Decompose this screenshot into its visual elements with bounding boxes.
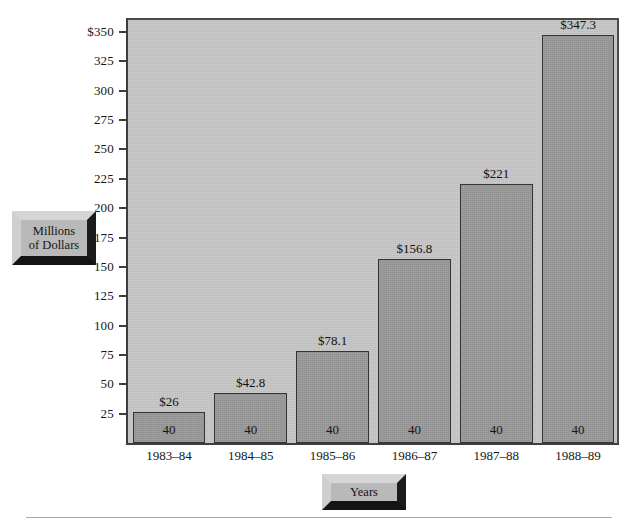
y-axis-tick	[119, 295, 128, 297]
bar-inner-label: 40	[134, 423, 205, 437]
bar-inner-label: 40	[297, 423, 368, 437]
bar-value-label: $26	[133, 395, 206, 409]
x-axis-category-label: 1983–84	[128, 449, 210, 463]
y-axis-tick	[119, 60, 128, 62]
y-axis-tick	[119, 413, 128, 415]
y-axis-tick-label: 325	[46, 54, 114, 67]
bar-value-label: $78.1	[296, 334, 369, 348]
bar-inner-label: 40	[215, 423, 286, 437]
y-axis-tick-label: 100	[46, 319, 114, 332]
y-axis-tick	[119, 178, 128, 180]
bar: 40	[296, 351, 369, 443]
bar: 40	[378, 259, 451, 443]
x-axis-category-label: 1988–89	[537, 449, 619, 463]
x-axis-category-label: 1987–88	[455, 449, 537, 463]
y-axis-tick	[119, 383, 128, 385]
y-axis-tick	[119, 266, 128, 268]
x-axis-category-label: 1984–85	[210, 449, 292, 463]
y-axis-tick-label: 300	[46, 84, 114, 97]
bar-inner-label: 40	[379, 423, 450, 437]
x-axis-line	[126, 443, 619, 445]
y-axis-tick-label: 75	[46, 348, 114, 361]
bar-value-label: $347.3	[542, 18, 615, 32]
y-axis-title-line-1: Millions	[33, 224, 75, 238]
y-axis-tick	[119, 207, 128, 209]
y-axis-tick-label: 25	[46, 407, 114, 420]
y-axis-tick	[119, 325, 128, 327]
x-axis-title-plate: Years	[322, 474, 406, 510]
bar-value-label: $221	[460, 167, 533, 181]
y-axis-tick-label: 125	[46, 289, 114, 302]
x-axis-title-text: Years	[331, 485, 397, 499]
bar-inner-label: 40	[543, 423, 614, 437]
y-axis-tick	[119, 90, 128, 92]
bar: 40	[542, 35, 615, 443]
bar-chart-figure: 255075100125150175200225250275300325$350…	[0, 0, 638, 531]
bar: 40	[460, 184, 533, 443]
x-axis-category-label: 1986–87	[374, 449, 456, 463]
bar: 40	[133, 412, 206, 443]
bottom-divider-rule	[26, 517, 612, 518]
y-axis-tick	[119, 119, 128, 121]
y-axis-tick-label: $350	[46, 25, 114, 38]
y-axis-title-text: Millions of Dollars	[21, 224, 87, 252]
y-axis-tick-label: 50	[46, 377, 114, 390]
y-axis-line	[126, 18, 128, 445]
bar-value-label: $42.8	[214, 376, 287, 390]
x-axis-category-label: 1985–86	[292, 449, 374, 463]
y-axis-tick	[119, 31, 128, 33]
y-axis-tick	[119, 237, 128, 239]
bar-value-label: $156.8	[378, 242, 451, 256]
bar: 40	[214, 393, 287, 443]
y-axis-title-line-2: of Dollars	[29, 238, 79, 252]
y-axis-tick-labels: 255075100125150175200225250275300325$350	[40, 0, 114, 531]
y-axis-tick-label: 225	[46, 172, 114, 185]
y-axis-tick	[119, 354, 128, 356]
y-axis-tick-label: 250	[46, 142, 114, 155]
y-axis-tick	[119, 148, 128, 150]
bar-inner-label: 40	[461, 423, 532, 437]
y-axis-title-plate: Millions of Dollars	[12, 211, 96, 265]
y-axis-tick-label: 275	[46, 113, 114, 126]
